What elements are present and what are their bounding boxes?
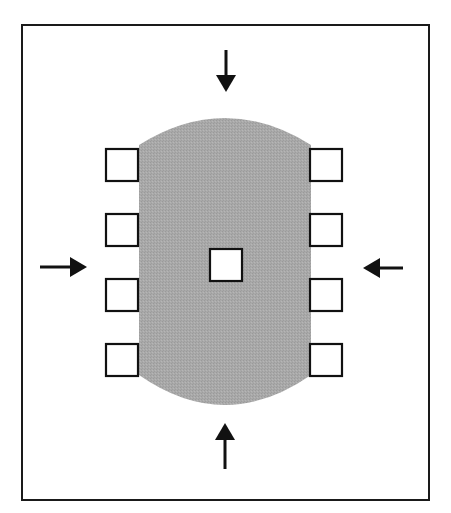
arrow-bottom-icon	[215, 423, 235, 469]
left-square-1	[106, 149, 138, 181]
right-square-4	[310, 344, 342, 376]
arrow-top-icon	[216, 50, 236, 92]
right-square-2	[310, 214, 342, 246]
compression-diagram	[0, 0, 451, 513]
right-square-1	[310, 149, 342, 181]
center-square	[210, 249, 242, 281]
diagram-canvas	[0, 0, 451, 513]
left-square-3	[106, 279, 138, 311]
right-square-3	[310, 279, 342, 311]
left-square-2	[106, 214, 138, 246]
arrow-right-icon	[363, 258, 403, 278]
left-square-4	[106, 344, 138, 376]
arrow-left-icon	[40, 257, 87, 277]
